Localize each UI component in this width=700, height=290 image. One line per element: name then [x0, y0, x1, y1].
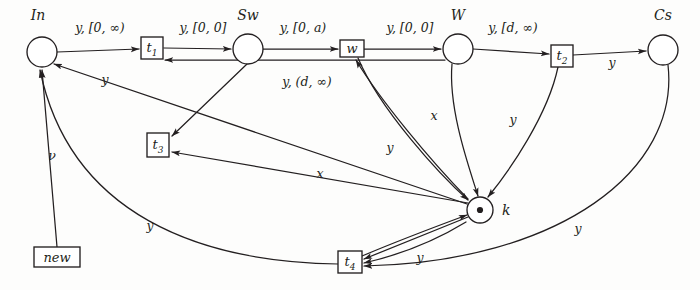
arc-label-k-in: y	[101, 74, 108, 87]
place-Cs	[648, 35, 678, 65]
transition-label-t3: t3	[153, 138, 164, 155]
arc-t4-to-in	[40, 70, 338, 264]
arc-label-sw-t3: y, (d, ∞)	[282, 76, 331, 89]
transition-label-t4-sub: 4	[350, 262, 356, 272]
place-W	[443, 34, 473, 64]
place-label-Cs: Cs	[654, 8, 672, 22]
place-In	[27, 37, 57, 67]
arc-label-t2-cs: y	[608, 57, 615, 70]
transition-label-t3-sub: 3	[158, 145, 164, 155]
arc-cs-to-t4	[364, 65, 669, 266]
arc-label-new-in: ν	[48, 150, 56, 163]
place-label-k: k	[502, 203, 510, 217]
transitions-group	[34, 37, 573, 273]
place-label-Sw: Sw	[237, 8, 259, 22]
transition-label-t4: t4	[345, 255, 356, 272]
arc-bigw-to-k	[452, 64, 478, 196]
arc-label-bigw-k: x	[430, 110, 437, 123]
arc-label-t4-in: y	[146, 220, 153, 233]
arc-in-to-t1	[57, 49, 139, 52]
arc-label-w-k: y	[386, 142, 393, 155]
petri-net-figure: In Sw W Cs k t1 w t2 t3 t4 new y, [0, ∞)…	[0, 0, 700, 290]
transition-label-w: w	[346, 42, 357, 59]
transition-label-t2: t2	[557, 49, 568, 66]
arc-label-t1-sw: y, [0, 0]	[180, 22, 227, 35]
transition-label-new: new	[43, 251, 70, 268]
transition-label-w-base: w	[346, 41, 357, 56]
arc-label-in-t1: y, [0, ∞)	[75, 22, 124, 35]
arc-label-w-bigw: y, [0, 0]	[387, 22, 434, 35]
arc-label-cs-t4: y	[574, 223, 581, 236]
places-group	[27, 34, 678, 223]
arc-t2-to-k	[488, 67, 558, 197]
arc-k-to-in	[54, 64, 467, 204]
arc-label-k-t4: y	[416, 252, 423, 265]
place-label-W: W	[451, 8, 465, 22]
arc-t1-to-sw	[164, 48, 231, 49]
transition-label-t1-sub: 1	[152, 48, 158, 58]
arc-label-sw-w: y, [0, a)	[280, 22, 326, 35]
arc-t4-to-k	[362, 215, 467, 256]
arc-label-t2-k: y	[509, 114, 516, 127]
place-Sw	[233, 34, 263, 64]
transition-label-new-base: new	[43, 250, 70, 265]
transition-label-t2-sub: 2	[562, 56, 568, 66]
arc-label-k-t3: x	[316, 168, 323, 181]
arc-k-to-t4-second	[364, 222, 466, 263]
arc-bigw-to-t2	[473, 49, 549, 54]
place-label-In: In	[31, 8, 46, 22]
transition-label-t1: t1	[147, 41, 158, 58]
token-k	[477, 207, 483, 213]
arc-label-bigw-t2: y, [d, ∞)	[488, 22, 537, 35]
